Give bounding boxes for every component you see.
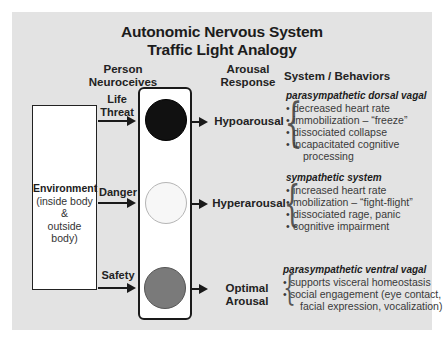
header-system-behaviors: System / Behaviors bbox=[284, 70, 424, 83]
behavior-item: mobilization – “fight-flight” bbox=[286, 196, 413, 208]
header-person-neuroceives: Person Neuroceives bbox=[78, 63, 168, 89]
lamp-top-dark bbox=[145, 99, 187, 141]
system-block-dorsal-vagal: parasympathetic dorsal vagal decreased h… bbox=[286, 90, 427, 162]
behavior-list: supports visceral homeostasis social eng… bbox=[283, 276, 442, 312]
behavior-item: decreased heart rate bbox=[286, 102, 427, 114]
environment-line: outside body) bbox=[33, 220, 96, 245]
system-block-sympathetic: sympathetic system increased heart rate … bbox=[286, 172, 413, 232]
behavior-text: decreased heart rate bbox=[293, 102, 390, 114]
behavior-item: incapacitated cognitiveprocessing bbox=[286, 138, 427, 162]
behavior-item: cognitive impairment bbox=[286, 220, 413, 232]
system-block-ventral-vagal: parasympathetic ventral vagal supports v… bbox=[283, 264, 442, 312]
title-line-2: Traffic Light Analogy bbox=[12, 41, 432, 59]
response-line: Arousal bbox=[222, 295, 272, 308]
arrow-danger bbox=[98, 202, 134, 204]
title-line-1: Autonomic Nervous System bbox=[12, 23, 432, 41]
behavior-item: increased heart rate bbox=[286, 184, 413, 196]
system-title: sympathetic system bbox=[286, 172, 413, 184]
header-line: Person bbox=[78, 63, 168, 76]
environment-label: Environment bbox=[33, 182, 97, 194]
lamp-middle-light bbox=[145, 182, 187, 224]
arrow-to-optimal bbox=[192, 288, 206, 290]
response-hyperarousal: Hyperarousal bbox=[212, 197, 286, 210]
behavior-list: increased heart rate mobilization – “fig… bbox=[286, 184, 413, 232]
label-line: Life bbox=[100, 93, 134, 106]
header-line: Response bbox=[213, 76, 283, 89]
behavior-item: dissociated collapse bbox=[286, 126, 427, 138]
lamp-bottom-gray bbox=[144, 267, 186, 309]
environment-line: & bbox=[33, 207, 96, 220]
response-line: Optimal bbox=[222, 282, 272, 295]
arrow-to-hyperarousal bbox=[192, 203, 206, 205]
system-title: parasympathetic dorsal vagal bbox=[286, 90, 427, 102]
arrow-life-threat bbox=[98, 120, 134, 122]
header-line: Arousal bbox=[213, 63, 283, 76]
behavior-item: supports visceral homeostasis bbox=[283, 276, 442, 288]
behavior-text: incapacitated cognitive bbox=[293, 138, 399, 150]
behavior-text-cont: facial expression, vocalization) bbox=[290, 300, 442, 312]
behavior-list: decreased heart rate immobilization – “f… bbox=[286, 102, 427, 162]
behavior-item: immobilization – “freeze” bbox=[286, 114, 427, 126]
response-optimal-arousal: Optimal Arousal bbox=[222, 282, 272, 308]
response-hypoarousal: Hypoarousal bbox=[214, 115, 284, 128]
behavior-text: dissociated rage, panic bbox=[293, 208, 400, 220]
arrow-safety bbox=[98, 287, 134, 289]
system-title: parasympathetic ventral vagal bbox=[283, 264, 442, 276]
behavior-item: dissociated rage, panic bbox=[286, 208, 413, 220]
label-danger: Danger bbox=[98, 186, 138, 199]
behavior-text: cognitive impairment bbox=[293, 220, 389, 232]
behavior-text: dissociated collapse bbox=[293, 126, 387, 138]
label-safety: Safety bbox=[98, 269, 138, 282]
arrow-to-hypoarousal bbox=[192, 121, 206, 123]
header-arousal-response: Arousal Response bbox=[213, 63, 283, 89]
label-life-threat: Life Threat bbox=[100, 93, 134, 118]
environment-line: (inside body bbox=[33, 195, 96, 208]
environment-box: Environment (inside body & outside body) bbox=[32, 105, 97, 290]
behavior-text: social engagement (eye contact, bbox=[290, 288, 441, 300]
behavior-text: immobilization – “freeze” bbox=[293, 114, 407, 126]
behavior-text: supports visceral homeostasis bbox=[290, 276, 431, 288]
environment-text: Environment (inside body & outside body) bbox=[33, 182, 96, 245]
behavior-text-cont: processing bbox=[293, 150, 427, 162]
behavior-item: social engagement (eye contact,facial ex… bbox=[283, 288, 442, 312]
behavior-text: increased heart rate bbox=[293, 184, 386, 196]
behavior-text: mobilization – “fight-flight” bbox=[293, 196, 413, 208]
